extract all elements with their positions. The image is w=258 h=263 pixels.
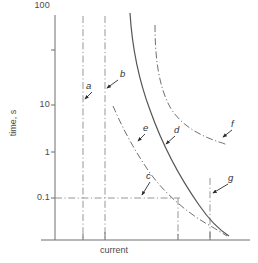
- y-tick-label-10: 10: [18, 99, 50, 109]
- y-axis-title: time, s: [8, 93, 18, 153]
- arrow-f: [223, 130, 232, 137]
- curve-label-e: e: [143, 122, 148, 133]
- arrow-g: [213, 184, 228, 193]
- x-axis-title: current: [100, 245, 128, 255]
- curve-label-a: a: [86, 80, 91, 91]
- curve-label-f: f: [231, 118, 234, 129]
- x-axis-ticks: [83, 232, 210, 240]
- arrow-a: [85, 92, 92, 99]
- y-axis-ticks: [51, 50, 55, 198]
- arrow-b: [107, 80, 118, 88]
- curve-f: [155, 25, 227, 145]
- time-current-chart: 100 10 1 0.1 time, s current a b c d e f…: [0, 0, 258, 263]
- curve-label-c: c: [146, 170, 151, 181]
- curve-label-b: b: [120, 68, 125, 79]
- curve-label-g: g: [228, 172, 233, 183]
- y-tick-label-100: 100: [18, 0, 50, 10]
- arrow-d: [166, 136, 175, 144]
- annotation-arrows: [85, 80, 232, 195]
- curve-label-d: d: [174, 124, 179, 135]
- chart-plot-area: [0, 0, 258, 263]
- y-tick-label-1: 1: [18, 147, 50, 157]
- y-tick-label-0.1: 0.1: [18, 192, 50, 202]
- arrow-e: [138, 134, 145, 141]
- curve-e: [113, 106, 227, 236]
- arrow-c: [142, 182, 150, 195]
